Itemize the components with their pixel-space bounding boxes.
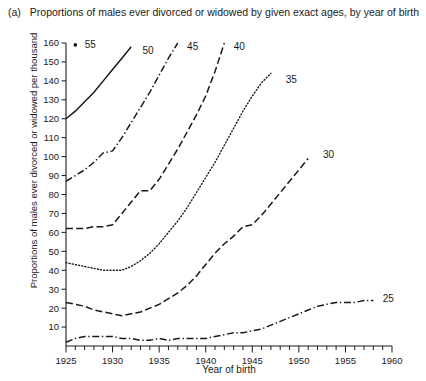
- y-tick-label: 120: [43, 113, 59, 124]
- y-tick-label: 70: [48, 208, 59, 219]
- series-label-55: 55: [85, 39, 97, 50]
- y-tick-label: 10: [48, 321, 59, 332]
- series-label-35: 35: [286, 74, 298, 85]
- series-30: 30: [66, 149, 335, 315]
- y-tick-label: 80: [48, 189, 59, 200]
- series-line: [66, 47, 131, 119]
- series-45: 45: [66, 41, 199, 181]
- y-tick-label: 150: [43, 56, 59, 67]
- series-label-50: 50: [142, 45, 154, 56]
- series-label-30: 30: [323, 149, 335, 160]
- y-tick-label: 40: [48, 265, 59, 276]
- series-25: 25: [66, 293, 394, 342]
- series-label-40: 40: [234, 41, 246, 52]
- figure-root: (a) Proportions of males ever divorced o…: [0, 0, 426, 381]
- y-tick-label: 100: [43, 151, 59, 162]
- series-label-25: 25: [383, 293, 395, 304]
- series-line: [66, 43, 178, 181]
- series-35: 35: [66, 73, 297, 270]
- series-50: 50: [66, 45, 154, 119]
- x-tick-label: 1945: [242, 355, 263, 366]
- y-tick-label: 20: [48, 303, 59, 314]
- x-tick-label: 1925: [55, 355, 76, 366]
- y-tick-label: 160: [43, 37, 59, 48]
- x-tick-label: 1955: [335, 355, 356, 366]
- y-tick-label: 140: [43, 75, 59, 86]
- series-40: 40: [66, 41, 245, 228]
- y-tick-label: 110: [44, 132, 59, 143]
- series-line: [66, 301, 373, 343]
- x-tick-label: 1935: [149, 355, 170, 366]
- series-line: [66, 73, 271, 270]
- x-tick-label: 1940: [195, 355, 216, 366]
- series-55: 55: [74, 39, 97, 50]
- series-line: [66, 43, 224, 229]
- y-tick-label: 130: [43, 94, 59, 105]
- y-tick-label: 30: [48, 284, 59, 295]
- x-tick-label: 1930: [102, 355, 123, 366]
- y-tick-label: 50: [48, 246, 59, 257]
- y-tick-label: 90: [48, 170, 59, 181]
- line-chart: 1020304050607080901001101201301401501601…: [0, 0, 426, 381]
- y-tick-label: 60: [48, 227, 59, 238]
- x-tick-label: 1950: [288, 355, 309, 366]
- series-line: [66, 159, 308, 316]
- series-label-45: 45: [187, 41, 199, 52]
- x-tick-label: 1960: [381, 355, 402, 366]
- series-marker: [74, 43, 78, 47]
